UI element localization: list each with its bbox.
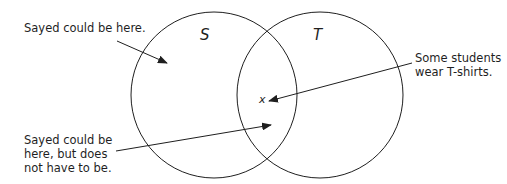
arrow-top-left	[117, 41, 167, 63]
annotation-line: wear T-shirts.	[415, 65, 501, 79]
annotation-line: here, but does	[24, 147, 112, 161]
annotation-line: not have to be.	[24, 161, 112, 175]
annotation-line: Sayed could be	[24, 133, 112, 147]
annotation-right: Some students wear T-shirts.	[415, 51, 501, 79]
x-marker: x	[259, 93, 266, 106]
set-t-label: T	[313, 26, 322, 44]
annotation-line: Some students	[415, 51, 501, 65]
set-s-circle	[131, 12, 297, 178]
annotation-bottom-left: Sayed could be here, but does not have t…	[24, 133, 112, 175]
arrow-right	[269, 63, 412, 101]
arrow-bottom-left	[116, 125, 271, 151]
set-s-label: S	[200, 26, 210, 44]
annotation-line: Sayed could be here.	[24, 21, 146, 35]
annotation-top-left: Sayed could be here.	[24, 21, 146, 35]
